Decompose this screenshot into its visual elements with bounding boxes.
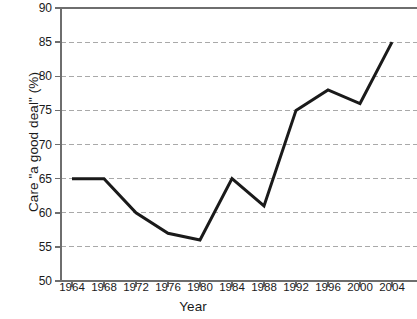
x-axis-title-text: Year — [179, 299, 206, 314]
x-axis-tick-labels: 1964196819721976198019841988199219962000… — [0, 281, 417, 299]
x-axis-tick-label: 1988 — [251, 281, 277, 293]
x-axis-title: Year — [61, 299, 417, 314]
x-axis-tick-label: 1968 — [91, 281, 117, 293]
y-axis-title: Care "a good deal" (%) — [22, 0, 44, 284]
x-axis-tick-label: 1996 — [315, 281, 341, 293]
line-chart: 505560657075808590 196419681972197619801… — [0, 0, 417, 319]
gridlines — [61, 42, 417, 281]
x-axis-tick-label: 1964 — [59, 281, 85, 293]
x-axis-tick-label: 1984 — [219, 281, 245, 293]
plot-area — [0, 0, 417, 319]
x-axis-tick-label: 1976 — [155, 281, 181, 293]
x-axis-tick-label: 1992 — [283, 281, 309, 293]
data-series-line — [72, 42, 392, 240]
x-axis-tick-label: 2000 — [347, 281, 373, 293]
x-axis-tick-label: 2004 — [379, 281, 405, 293]
x-axis-tick-label: 1972 — [123, 281, 149, 293]
x-axis-tick-label: 1980 — [187, 281, 213, 293]
